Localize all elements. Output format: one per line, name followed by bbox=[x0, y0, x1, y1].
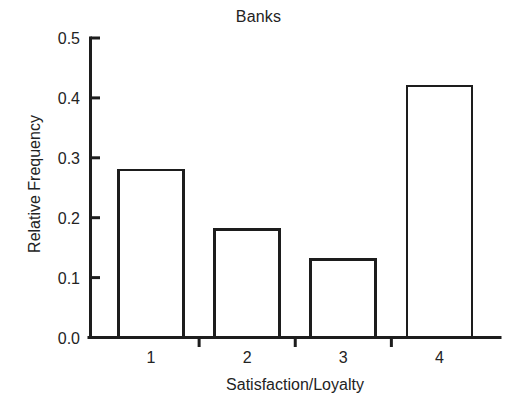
y-tick-label: 0.3 bbox=[58, 150, 80, 167]
x-axis-title: Satisfaction/Loyalty bbox=[90, 376, 500, 394]
x-tick-label: 3 bbox=[339, 349, 348, 366]
plot-area: 0.00.10.20.30.40.5 1234 bbox=[0, 0, 529, 419]
bar-1 bbox=[119, 170, 184, 338]
y-tick-label: 0.4 bbox=[58, 90, 80, 107]
y-tick-label: 0.2 bbox=[58, 210, 80, 227]
y-tick-label: 0.0 bbox=[58, 330, 80, 347]
x-tick-label: 1 bbox=[147, 349, 156, 366]
x-tick-label: 4 bbox=[435, 349, 444, 366]
x-tick-labels-group: 1234 bbox=[147, 349, 444, 366]
bar-4 bbox=[407, 86, 472, 338]
y-tick-label: 0.5 bbox=[58, 30, 80, 47]
y-tick-label: 0.1 bbox=[58, 270, 80, 287]
bar-3 bbox=[311, 260, 376, 338]
bars-group bbox=[119, 86, 472, 338]
bar-2 bbox=[215, 230, 280, 338]
chart-screenshot: Banks Relative Frequency 0.00.10.20.30.4… bbox=[0, 0, 529, 419]
y-tick-labels-group: 0.00.10.20.30.40.5 bbox=[58, 30, 80, 347]
x-tick-label: 2 bbox=[243, 349, 252, 366]
